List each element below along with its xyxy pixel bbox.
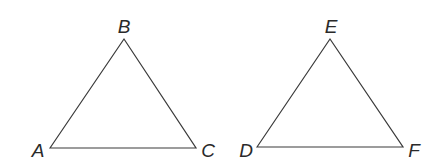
triangle-def xyxy=(257,39,403,147)
triangle-abc xyxy=(50,39,196,148)
vertex-label-f: F xyxy=(408,140,421,161)
vertex-label-d: D xyxy=(239,140,253,161)
vertex-label-b: B xyxy=(118,16,131,37)
vertex-label-a: A xyxy=(31,140,45,161)
vertex-label-e: E xyxy=(325,16,338,37)
vertex-label-c: C xyxy=(201,140,215,161)
diagram-canvas: A B C D E F xyxy=(0,0,437,165)
